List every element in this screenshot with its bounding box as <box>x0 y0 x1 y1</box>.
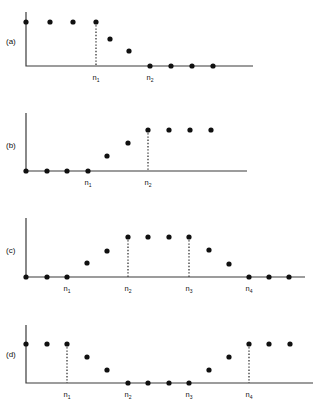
data-point-c-12 <box>266 274 271 279</box>
data-point-d-1 <box>44 341 49 346</box>
data-point-d-0 <box>23 341 28 346</box>
data-point-d-9 <box>206 367 211 372</box>
data-point-c-10 <box>226 261 231 266</box>
data-point-b-1 <box>44 168 49 173</box>
data-point-b-9 <box>208 127 213 132</box>
data-point-d-7 <box>166 380 171 385</box>
data-point-b-6 <box>145 127 150 132</box>
data-point-d-8 <box>186 380 191 385</box>
data-point-a-8 <box>189 63 194 68</box>
data-point-b-4 <box>104 153 109 158</box>
panel-label-b: (b) <box>6 141 16 150</box>
data-point-a-4 <box>107 36 112 41</box>
data-point-a-6 <box>147 63 152 68</box>
data-point-c-4 <box>104 248 109 253</box>
data-point-d-6 <box>145 380 150 385</box>
data-point-c-9 <box>206 247 211 252</box>
data-point-d-11 <box>246 341 251 346</box>
data-point-b-8 <box>187 127 192 132</box>
data-point-c-8 <box>186 234 191 239</box>
data-point-b-7 <box>166 127 171 132</box>
data-point-d-3 <box>84 354 89 359</box>
data-point-c-1 <box>44 274 49 279</box>
data-point-d-4 <box>104 367 109 372</box>
panel-label-a: (a) <box>6 37 16 46</box>
data-point-b-3 <box>85 168 90 173</box>
data-point-a-3 <box>93 19 98 24</box>
data-point-b-0 <box>23 168 28 173</box>
data-point-a-7 <box>168 63 173 68</box>
data-point-d-12 <box>266 341 271 346</box>
data-point-c-11 <box>246 274 251 279</box>
data-point-d-10 <box>226 354 231 359</box>
data-point-d-13 <box>287 341 292 346</box>
panel-label-c: (c) <box>6 246 16 255</box>
figure-background <box>0 0 322 408</box>
data-point-a-9 <box>210 63 215 68</box>
data-point-d-5 <box>125 380 130 385</box>
data-point-c-3 <box>84 260 89 265</box>
data-point-a-0 <box>23 19 28 24</box>
data-point-c-5 <box>125 234 130 239</box>
data-point-c-13 <box>286 274 291 279</box>
data-point-c-0 <box>23 274 28 279</box>
data-point-a-1 <box>47 19 52 24</box>
data-point-d-2 <box>64 341 69 346</box>
panel-label-d: (d) <box>6 350 16 359</box>
data-point-b-2 <box>64 168 69 173</box>
data-point-c-2 <box>64 274 69 279</box>
data-point-c-7 <box>166 234 171 239</box>
data-point-a-5 <box>126 48 131 53</box>
data-point-b-5 <box>125 140 130 145</box>
data-point-c-6 <box>145 234 150 239</box>
data-point-a-2 <box>70 19 75 24</box>
figure-canvas: (a)n1n2(b)n1n2(c)n1n2n3n4(d)n1n2n3n4 <box>0 0 322 408</box>
